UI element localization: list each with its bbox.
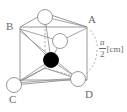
dimension-indicator	[86, 30, 97, 74]
atom-corner-c-open	[7, 78, 22, 93]
dimension-numerator: a	[99, 38, 106, 47]
atom-middle-open	[53, 34, 68, 49]
vertex-label-b: B	[6, 21, 13, 32]
dimension-fraction: a 2	[99, 38, 106, 59]
vertex-label-a: A	[88, 14, 96, 25]
dimension-denominator: 2	[99, 50, 106, 59]
lattice-figure: A B C D a 2 [cm]	[0, 0, 127, 112]
atom-corner-d-open	[71, 72, 86, 87]
dimension-unit: [cm]	[107, 44, 124, 54]
vertex-label-d: D	[85, 89, 93, 100]
dimension-arc-lower	[86, 50, 97, 74]
atom-center-filled	[44, 53, 59, 68]
dimension-label: a 2 [cm]	[99, 38, 124, 59]
atom-top-open	[38, 10, 53, 25]
dimension-arc-upper	[90, 30, 97, 46]
vertex-label-c: C	[9, 94, 16, 105]
